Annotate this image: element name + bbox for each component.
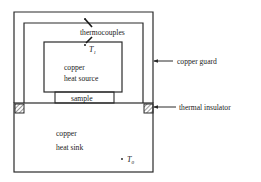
apparatus-diagram: thermocouples T1 copper heat source samp…: [0, 0, 261, 182]
t0-label: T0: [127, 155, 134, 165]
thermocouples-label: thermocouples: [80, 28, 125, 37]
heat-sink-label-line2: heat sink: [56, 143, 83, 152]
copper-guard-arrow-icon: [153, 59, 173, 62]
copper-guard: [14, 12, 153, 103]
thermal-insulator-right: [144, 104, 153, 113]
t1-label: T1: [89, 45, 96, 55]
thermal-insulator-arrow-icon: [153, 105, 176, 108]
thermal-insulator-left: [15, 104, 24, 113]
heat-sink-label-line1: copper: [56, 129, 77, 138]
heat-source-label-line1: copper: [64, 63, 85, 72]
thermal-insulator-label: thermal insulator: [179, 103, 231, 112]
copper-guard-label: copper guard: [177, 57, 217, 66]
t0-point-icon: [121, 158, 123, 160]
sample-label: sample: [71, 94, 93, 103]
heat-source-label-line2: heat source: [64, 74, 99, 83]
